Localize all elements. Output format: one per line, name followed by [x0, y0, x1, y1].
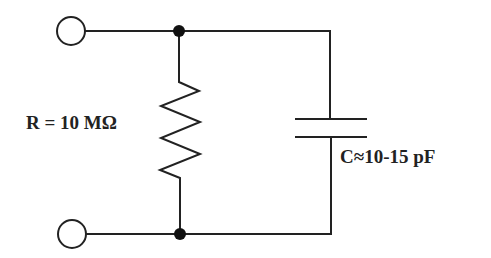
top-wire	[85, 31, 330, 119]
resistor-label: R = 10 MΩ	[26, 112, 117, 134]
bottom-wire	[86, 137, 331, 234]
bottom-terminal	[58, 220, 86, 248]
junction-dot-top	[173, 25, 185, 37]
capacitor-label: C≈10-15 pF	[340, 146, 435, 168]
top-terminal	[57, 17, 85, 45]
junction-dot-bottom	[174, 228, 186, 240]
resistor	[160, 31, 200, 234]
